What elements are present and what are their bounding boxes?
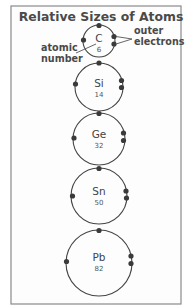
atomic-number: 32 <box>95 142 104 150</box>
atomic-number: 82 <box>95 265 104 273</box>
electron-icon <box>119 85 124 90</box>
atomic-number: 14 <box>95 91 104 99</box>
electron-icon <box>96 166 101 171</box>
electron-icon <box>71 135 76 140</box>
electron-icon <box>96 228 101 233</box>
electron-icon <box>121 138 126 143</box>
outer-electrons-label-line2: electrons <box>134 36 185 47</box>
atom-size-diagram: Relative Sizes of Atoms C 6 outer electr… <box>0 0 186 307</box>
electron-icon <box>64 259 69 264</box>
electron-icon <box>70 193 75 198</box>
electron-icon <box>121 130 126 135</box>
element-symbol: Sn <box>92 185 105 197</box>
atomic-number-label-line1: atomic <box>41 42 78 53</box>
atomic-number: 50 <box>95 199 104 207</box>
electron-icon <box>128 261 133 266</box>
electron-icon <box>119 78 124 83</box>
electron-icon <box>73 81 78 86</box>
electron-icon <box>96 111 101 116</box>
electron-icon <box>128 253 133 258</box>
element-symbol: C <box>95 32 102 44</box>
electron-icon <box>81 37 86 42</box>
electron-icon <box>123 188 128 193</box>
element-symbol: Ge <box>92 128 107 140</box>
atomic-number-label-line2: number <box>41 53 83 64</box>
electron-icon <box>111 34 116 39</box>
electron-icon <box>124 195 129 200</box>
electron-icon <box>111 41 116 46</box>
element-symbol: Pb <box>93 251 106 263</box>
electron-icon <box>96 60 101 65</box>
atomic-number: 6 <box>97 46 102 54</box>
diagram-title: Relative Sizes of Atoms <box>19 9 184 24</box>
electron-icon <box>96 23 101 28</box>
outer-electrons-label-line1: outer <box>134 25 164 36</box>
element-symbol: Si <box>94 77 104 89</box>
